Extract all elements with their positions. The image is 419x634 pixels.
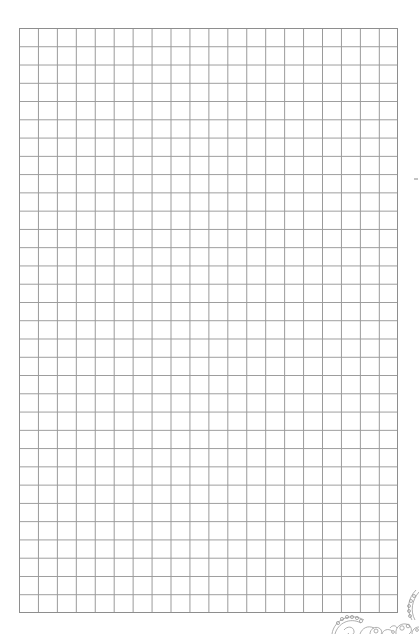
graph-paper-page (0, 0, 419, 634)
edge-tick-mark (414, 178, 418, 180)
square-grid (19, 28, 398, 613)
corner-flourish-icon (330, 590, 419, 634)
